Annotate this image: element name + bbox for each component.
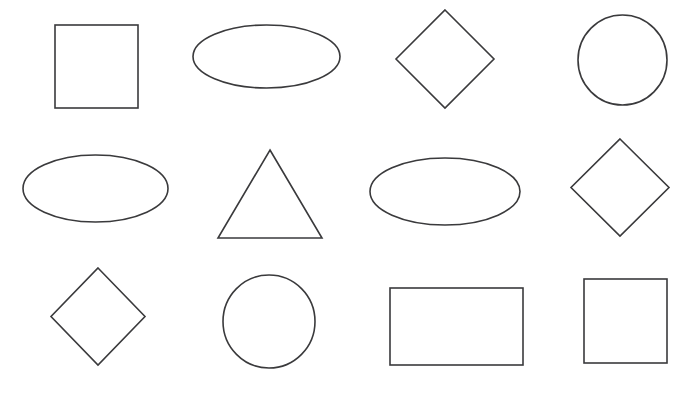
shape-drawing-surface [0,0,698,393]
shape-canvas [0,0,698,393]
shape-square [584,279,667,363]
shape-triangle [218,150,322,238]
shape-rectangle [390,288,523,365]
shape-diamond [396,10,494,108]
shape-ellipse [370,158,520,225]
shape-ellipse [23,155,168,222]
shape-ellipse [193,25,340,88]
shape-circle [223,275,315,368]
shape-diamond [51,268,145,365]
shape-square [55,25,138,108]
shape-circle [578,15,667,105]
shape-diamond [571,139,669,236]
